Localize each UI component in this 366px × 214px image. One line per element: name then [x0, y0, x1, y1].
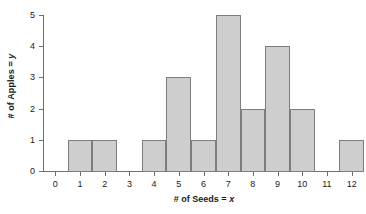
histogram-bar — [92, 140, 117, 172]
x-axis-tick — [302, 172, 303, 176]
y-axis-tick: 1 — [39, 140, 43, 141]
histogram-bar — [339, 140, 364, 172]
x-axis-tick-label: 4 — [152, 179, 157, 189]
y-axis-tick-label: 5 — [30, 10, 35, 20]
histogram-figure: # of Apples = y 012345 0123456789101112 … — [0, 0, 366, 214]
x-axis-tick — [228, 172, 229, 176]
x-axis-tick — [80, 172, 81, 176]
y-axis-tick: 5 — [39, 15, 43, 16]
y-axis-tick-label: 0 — [30, 166, 35, 176]
x-axis-tick — [204, 172, 205, 176]
y-axis-tick-label: 3 — [30, 72, 35, 82]
x-axis-label-prefix: # of Seeds = — [174, 194, 229, 204]
x-axis-tick — [327, 172, 328, 176]
y-axis-label-variable: y — [6, 54, 16, 59]
y-axis-label-prefix: # of Apples = — [6, 59, 16, 119]
x-axis-tick — [352, 172, 353, 176]
x-axis-tick-label: 0 — [53, 179, 58, 189]
histogram-bar — [241, 109, 266, 172]
x-axis-tick-label: 12 — [347, 179, 357, 189]
x-axis-tick — [105, 172, 106, 176]
x-axis-tick-label: 8 — [250, 179, 255, 189]
histogram-bar — [265, 46, 290, 172]
x-axis-tick-label: 11 — [322, 179, 331, 189]
x-axis-tick — [129, 172, 130, 176]
histogram-bar — [191, 140, 216, 172]
y-axis-tick-label: 2 — [30, 104, 35, 114]
plot-area: 012345 0123456789101112 — [43, 15, 364, 172]
histogram-bar — [290, 109, 315, 172]
histogram-bar — [216, 15, 241, 172]
y-axis-tick: 0 — [39, 171, 43, 172]
x-axis-label: # of Seeds = x — [44, 194, 364, 204]
x-axis-tick-label: 5 — [176, 179, 181, 189]
x-axis-tick — [253, 172, 254, 176]
x-axis-tick — [55, 172, 56, 176]
x-axis-tick-label: 9 — [275, 179, 280, 189]
y-axis-line — [43, 15, 44, 172]
y-axis-label-text: # of Apples = y — [6, 54, 16, 119]
y-axis-tick: 3 — [39, 77, 43, 78]
y-axis-label: # of Apples = y — [0, 0, 22, 172]
x-axis-tick — [179, 172, 180, 176]
histogram-bar — [68, 140, 93, 172]
x-axis-tick-label: 2 — [102, 179, 107, 189]
x-axis-tick — [154, 172, 155, 176]
y-axis-tick: 2 — [39, 109, 43, 110]
y-axis-tick: 4 — [39, 46, 43, 47]
x-axis-tick — [278, 172, 279, 176]
y-axis-tick-label: 4 — [30, 41, 35, 51]
x-axis-tick-label: 6 — [201, 179, 206, 189]
y-axis-tick-label: 1 — [30, 135, 35, 145]
x-axis-tick-label: 1 — [78, 179, 83, 189]
x-axis-tick-label: 7 — [226, 179, 231, 189]
histogram-bar — [166, 77, 191, 172]
histogram-bar — [142, 140, 167, 172]
x-axis-label-variable: x — [229, 194, 234, 204]
x-axis-tick-label: 10 — [297, 179, 307, 189]
x-axis-tick-label: 3 — [127, 179, 132, 189]
